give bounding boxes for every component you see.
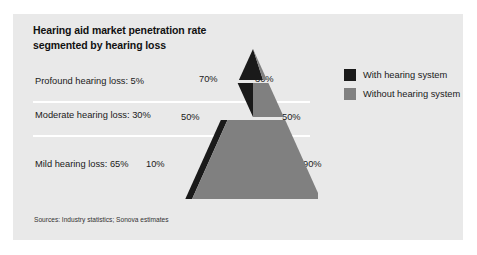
legend-label-with-hearing-system: With hearing system	[363, 70, 447, 80]
legend-item-with-hearing-system: With hearing system	[344, 69, 456, 81]
band-moderate-with	[222, 83, 253, 117]
band-mild-without	[192, 120, 318, 199]
row-label-mild: Mild hearing loss: 65%	[35, 159, 129, 169]
legend-label-without-hearing-system: Without hearing system	[363, 89, 460, 99]
title-line-1: Hearing aid market penetration rate	[33, 23, 323, 38]
page-title: Hearing aid market penetration rate segm…	[33, 23, 323, 52]
legend-swatch-with-hearing-system	[344, 69, 356, 81]
figure-panel: Hearing aid market penetration rate segm…	[13, 14, 463, 240]
pyramid-chart	[158, 49, 318, 199]
row-label-moderate: Moderate hearing loss: 30%	[35, 110, 151, 120]
legend-swatch-without-hearing-system	[344, 88, 356, 100]
legend: With hearing system Without hearing syst…	[344, 69, 456, 107]
legend-item-without-hearing-system: Without hearing system	[344, 88, 456, 100]
sources-note: Sources: Industry statistics; Sonova est…	[34, 216, 169, 223]
pyramid-band-profound	[239, 49, 267, 80]
band-moderate-without	[253, 83, 284, 117]
row-label-profound: Profound hearing loss: 5%	[35, 76, 144, 86]
pyramid-band-mild	[185, 120, 318, 199]
pyramid-band-moderate	[222, 83, 284, 117]
